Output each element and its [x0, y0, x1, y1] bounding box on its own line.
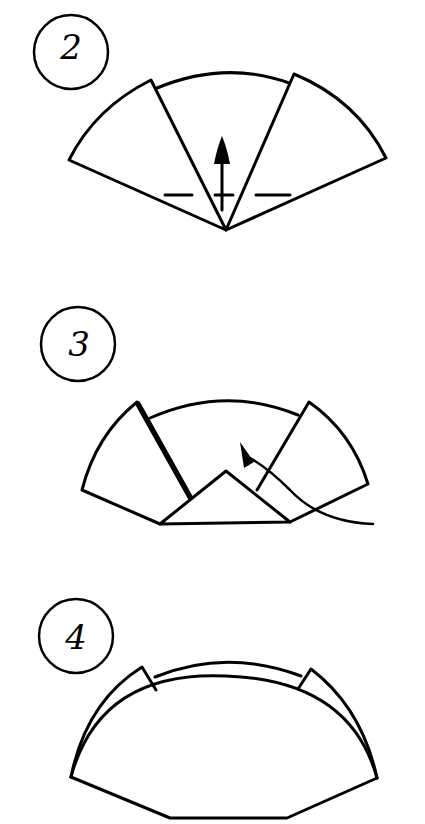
step-3 — [41, 307, 373, 524]
step-2-left-flap — [69, 80, 226, 230]
step-2 — [34, 15, 386, 230]
step-2-right-flap — [226, 74, 386, 230]
step-2-center-arc — [157, 73, 289, 88]
origami-diagram — [0, 0, 425, 824]
step-3-right-flap — [257, 402, 368, 522]
step-4-body-arc — [71, 676, 377, 778]
step-4-outer-left — [71, 667, 156, 777]
step-4 — [39, 599, 377, 818]
step-2-number-circle — [34, 15, 108, 89]
step-3-center-arc — [150, 401, 298, 418]
step-4-bottom-edge — [71, 777, 377, 818]
fold-up-arrow-icon — [214, 136, 230, 210]
step-3-number-circle — [41, 307, 115, 381]
step-4-outer-right — [298, 669, 377, 778]
step-4-number-circle — [39, 599, 113, 673]
step-3-left-flap-edge — [138, 404, 190, 497]
